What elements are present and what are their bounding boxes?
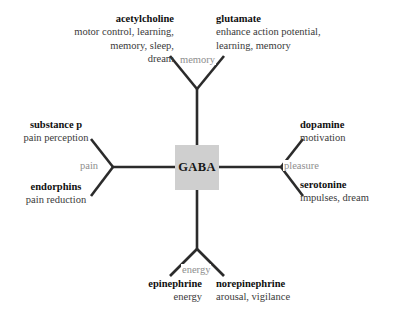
- leaf-title-norepinephrine: norepinephrine: [216, 277, 346, 290]
- leaf-title-serotonine: serotonine: [300, 178, 396, 191]
- leaf-desc-glutamate-line2: learning, memory: [216, 39, 376, 52]
- leaf-desc-glutamate-line1: enhance action potential,: [216, 25, 376, 38]
- leaf-dopamine: dopamine motivation: [300, 118, 394, 145]
- leaf-desc-substance-p-line1: pain perception: [8, 131, 104, 144]
- leaf-endorphins: endorphins pain reduction: [8, 180, 104, 207]
- leaf-title-epinephrine: epinephrine: [98, 277, 202, 290]
- leaf-desc-endorphins-line1: pain reduction: [8, 193, 104, 206]
- edge-label-pain: pain: [79, 160, 99, 171]
- leaf-glutamate: glutamate enhance action potential, lear…: [216, 12, 376, 52]
- leaf-epinephrine: epinephrine energy: [98, 277, 202, 304]
- leaf-title-acetylcholine: acetylcholine: [24, 12, 174, 25]
- leaf-desc-serotonine-line1: impulses, dream: [300, 191, 396, 204]
- leaf-title-endorphins: endorphins: [8, 180, 104, 193]
- center-node-label: GABA: [178, 160, 216, 175]
- leaf-title-dopamine: dopamine: [300, 118, 394, 131]
- leaf-desc-epinephrine-line1: energy: [98, 290, 202, 303]
- neurotransmitter-diagram: GABA memory pain pleasure energy acetylc…: [0, 0, 397, 318]
- leaf-desc-acetylcholine-line1: motor control, learning,: [24, 25, 174, 38]
- leaf-norepinephrine: norepinephrine arousal, vigilance: [216, 277, 346, 304]
- leaf-desc-dopamine-line1: motivation: [300, 131, 394, 144]
- leaf-serotonine: serotonine impulses, dream: [300, 178, 396, 205]
- leaf-desc-acetylcholine-line2: memory, sleep,: [24, 39, 174, 52]
- leaf-title-substance-p: substance p: [8, 118, 104, 131]
- leaf-desc-acetylcholine-line3: dream: [24, 52, 174, 65]
- leaf-substance-p: substance p pain perception: [8, 118, 104, 145]
- edge-label-pleasure: pleasure: [283, 160, 320, 171]
- leaf-desc-norepinephrine-line1: arousal, vigilance: [216, 290, 346, 303]
- edge-label-energy: energy: [181, 264, 211, 275]
- leaf-acetylcholine: acetylcholine motor control, learning, m…: [24, 12, 174, 66]
- leaf-title-glutamate: glutamate: [216, 12, 376, 25]
- center-node-gaba[interactable]: GABA: [175, 145, 219, 190]
- edge-label-memory: memory: [179, 54, 216, 65]
